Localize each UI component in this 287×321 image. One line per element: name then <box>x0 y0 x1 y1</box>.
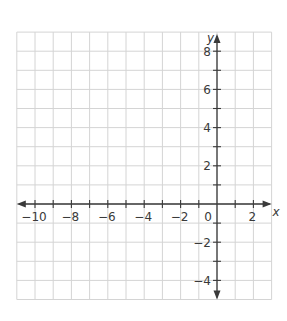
x-tick-label: −4 <box>134 210 152 224</box>
x-tick-label: 2 <box>249 210 257 224</box>
y-axis-down-arrow <box>214 291 221 300</box>
y-axis-title: y <box>206 31 215 45</box>
x-axis-title: x <box>272 205 281 219</box>
y-tick-label: 4 <box>203 121 211 135</box>
y-tick-label: 6 <box>203 83 211 97</box>
y-tick-label: −2 <box>193 236 211 250</box>
y-axis-up-arrow <box>214 34 221 43</box>
coordinate-plane: −10−8−6−4−228642−2−4 x y 0 <box>0 0 287 321</box>
origin-label: 0 <box>204 210 212 224</box>
x-tick-label: −2 <box>171 210 189 224</box>
y-tick-label: 8 <box>203 45 211 59</box>
x-tick-label: −8 <box>62 210 80 224</box>
x-axis-right-arrow <box>263 201 272 208</box>
grid <box>17 32 272 299</box>
x-tick-label: −10 <box>21 210 46 224</box>
x-tick-label: −6 <box>98 210 116 224</box>
x-axis-left-arrow <box>17 201 26 208</box>
y-tick-label: 2 <box>203 159 211 173</box>
y-tick-label: −4 <box>193 274 211 288</box>
